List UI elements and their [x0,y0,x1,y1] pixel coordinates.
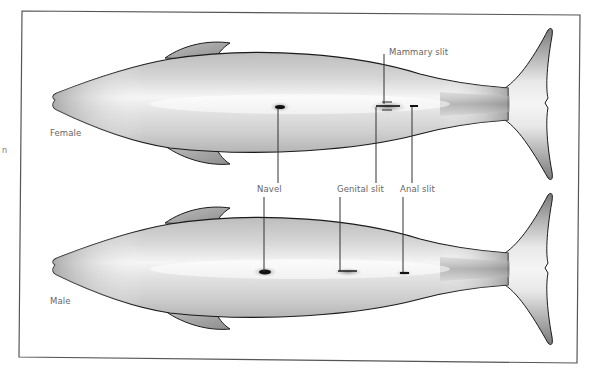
male-label: Male [50,296,71,306]
male-dolphin [53,193,552,344]
dolphin-ventral-diagram: n Female Male Mammary slit Navel Genital… [0,0,590,374]
female-label: Female [50,128,81,138]
female-dolphin [53,28,552,179]
cropped-text-fragment: n [2,146,7,155]
genital-slit-label: Genital slit [337,184,384,194]
anal-slit-label: Anal slit [400,184,435,194]
diagram-canvas [0,0,590,374]
mammary-slit-label: Mammary slit [389,47,448,57]
navel-label: Navel [257,184,282,194]
